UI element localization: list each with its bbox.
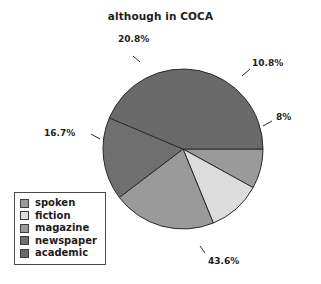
legend-swatch-magazine <box>20 224 29 233</box>
legend-swatch-academic <box>20 249 29 258</box>
legend-label-academic: academic <box>35 248 88 258</box>
legend-label-magazine: magazine <box>35 223 89 233</box>
legend: spokenfictionmagazinenewspaperacademic <box>14 192 106 265</box>
slice-label-magazine: 20.8% <box>118 34 149 44</box>
pie-chart: although in COCA 20.8% 10.8% 8% 16.7% 43… <box>0 0 321 284</box>
legend-swatch-spoken <box>20 199 29 208</box>
legend-label-fiction: fiction <box>35 211 71 221</box>
leader-line-spoken <box>263 121 272 126</box>
leader-line-fiction <box>242 69 250 76</box>
legend-swatch-fiction <box>20 211 29 220</box>
slice-label-academic: 43.6% <box>208 256 239 266</box>
pie-slice-group <box>103 69 263 229</box>
legend-item-magazine[interactable]: magazine <box>20 222 97 235</box>
legend-label-spoken: spoken <box>35 198 75 208</box>
slice-label-fiction: 10.8% <box>252 58 283 68</box>
slice-label-spoken: 8% <box>276 112 291 122</box>
legend-item-spoken[interactable]: spoken <box>20 197 97 210</box>
legend-swatch-newspaper <box>20 236 29 245</box>
legend-item-newspaper[interactable]: newspaper <box>20 235 97 248</box>
legend-item-fiction[interactable]: fiction <box>20 210 97 223</box>
legend-label-newspaper: newspaper <box>35 236 97 246</box>
leader-line-magazine <box>133 56 140 62</box>
leader-line-academic <box>200 246 205 253</box>
leader-line-newspaper <box>91 134 100 139</box>
slice-label-newspaper: 16.7% <box>44 128 75 138</box>
legend-item-academic[interactable]: academic <box>20 247 97 260</box>
